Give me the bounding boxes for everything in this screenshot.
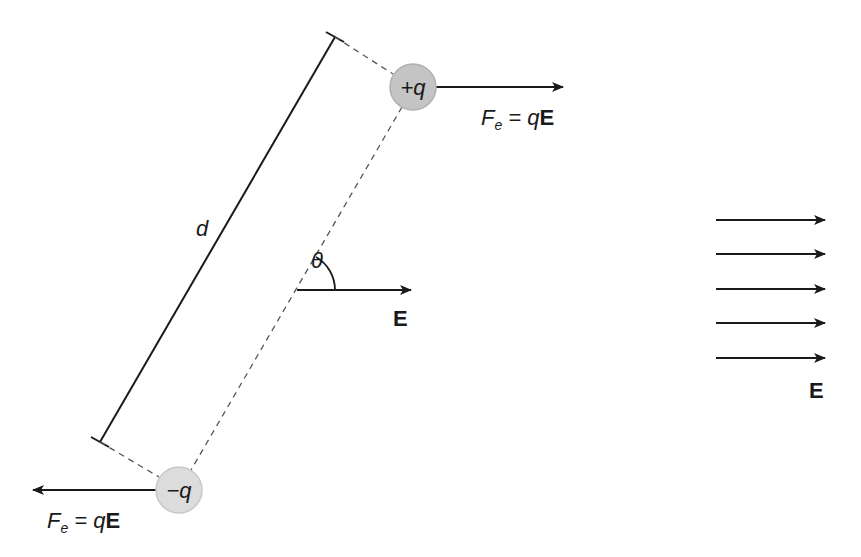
positive-charge: +q xyxy=(390,64,436,110)
dashed-guides xyxy=(100,37,402,477)
dipole-field-label: E xyxy=(393,306,408,331)
force-label-negative: Fe = qE xyxy=(47,508,120,536)
dipole-diagram: +q −q Fe = qE Fe = qE d θ E E xyxy=(0,0,861,557)
separation-label: d xyxy=(196,216,209,241)
uniform-field-arrows xyxy=(716,220,825,358)
force-label-positive: Fe = qE xyxy=(481,105,554,133)
field-label: E xyxy=(809,378,824,403)
negative-charge-label: −q xyxy=(166,478,192,503)
separation-d-line xyxy=(91,32,344,447)
negative-charge: −q xyxy=(156,467,202,513)
angle-label: θ xyxy=(311,248,323,273)
positive-charge-label: +q xyxy=(400,75,426,100)
